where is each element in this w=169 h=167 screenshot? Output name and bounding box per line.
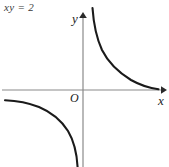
y-axis-label: y (72, 12, 78, 25)
curve-branch-quadrant-1 (93, 8, 159, 89)
curve-branch-quadrant-3 (5, 100, 78, 167)
x-axis-label: x (158, 94, 164, 107)
origin-label: O (70, 92, 79, 104)
hyperbola-figure: xy = 2 y x O (0, 0, 169, 167)
graph-canvas (0, 0, 169, 167)
y-axis-arrowhead (79, 12, 87, 18)
curve-group (5, 8, 159, 167)
axes-group (2, 12, 167, 167)
